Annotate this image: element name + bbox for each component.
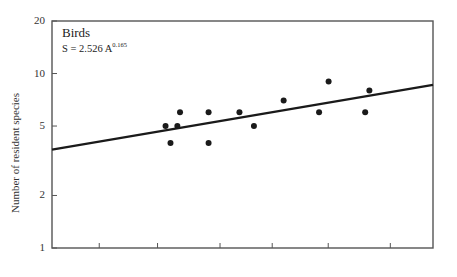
y-tick-label: 5	[25, 119, 45, 131]
data-point	[326, 79, 332, 85]
data-point	[362, 109, 368, 115]
regression-line	[52, 85, 433, 150]
x-axis-ticks	[99, 243, 390, 248]
data-point	[281, 98, 287, 104]
y-tick-label: 1	[25, 241, 45, 253]
data-point	[251, 123, 257, 129]
data-point	[174, 123, 180, 129]
data-point	[177, 109, 183, 115]
chart-title: Birds	[62, 25, 90, 41]
data-point	[366, 87, 372, 93]
y-axis-label: Number of resident species	[0, 58, 30, 248]
plot-frame	[52, 21, 433, 248]
data-point	[316, 109, 322, 115]
data-point	[167, 140, 173, 146]
data-point	[163, 123, 169, 129]
y-axis-ticks	[52, 21, 57, 248]
data-point	[236, 109, 242, 115]
data-point	[206, 109, 212, 115]
regression-equation: S = 2.526 A0.165	[62, 41, 127, 54]
y-axis-label-text: Number of resident species	[9, 93, 21, 213]
equation-exponent: 0.165	[112, 41, 127, 48]
y-tick-label: 10	[25, 67, 45, 79]
equation-base: S = 2.526 A	[62, 43, 112, 54]
y-tick-label: 2	[25, 188, 45, 200]
y-tick-label: 20	[25, 14, 45, 26]
data-point	[206, 140, 212, 146]
